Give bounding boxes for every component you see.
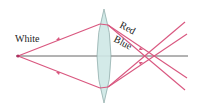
converging-lens — [97, 9, 111, 103]
label-blue: Blue — [112, 33, 134, 52]
chromatic-aberration-diagram: White Red Blue — [0, 0, 200, 107]
label-white: White — [15, 33, 40, 44]
light-source-point — [16, 54, 19, 57]
arrow-icon — [56, 37, 60, 40]
arrow-icon — [56, 72, 60, 75]
